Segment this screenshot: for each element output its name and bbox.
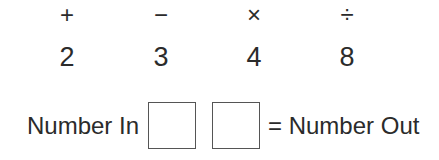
number-2: 2 [47,42,87,72]
number-in-label: Number In [27,112,139,140]
number-4: 4 [234,42,274,72]
number-3: 3 [141,42,181,72]
operation-minus: − [141,2,181,28]
operation-plus: + [47,2,87,28]
number-out-label: = Number Out [268,112,419,140]
operation-times: × [234,2,274,28]
operation-box-2[interactable] [212,102,260,149]
operation-divide: ÷ [327,2,367,28]
number-8: 8 [327,42,367,72]
operation-box-1[interactable] [148,102,196,149]
